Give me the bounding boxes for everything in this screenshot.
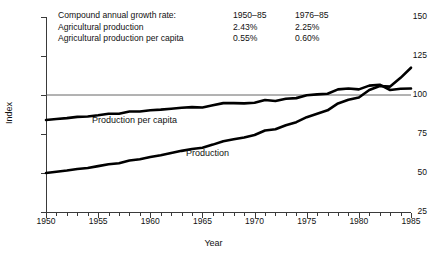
annotation-period-1: 1950–85: [233, 10, 295, 22]
series-label-production: Production: [186, 148, 229, 158]
growth-rate-annotation: Compound annual growth rate: 1950–85 197…: [58, 10, 357, 45]
annotation-production-rate-2: 2.25%: [295, 22, 357, 34]
x-axis-title: Year: [0, 238, 427, 248]
annotation-per-capita-rate-2: 0.60%: [295, 33, 357, 45]
annotation-row: Compound annual growth rate: 1950–85 197…: [58, 10, 357, 22]
annotation-row: Agricultural production per capita 0.55%…: [58, 33, 357, 45]
annotation-per-capita-rate-1: 0.55%: [233, 33, 295, 45]
annotation-header-label: Compound annual growth rate:: [58, 10, 233, 22]
annotation-per-capita-label: Agricultural production per capita: [58, 33, 233, 45]
annotation-period-2: 1976–85: [295, 10, 357, 22]
annotation-production-rate-1: 2.43%: [233, 22, 295, 34]
annotation-production-label: Agricultural production: [58, 22, 233, 34]
series-label-production-per-capita: Production per capita: [92, 115, 177, 125]
annotation-row: Agricultural production 2.43% 2.25%: [58, 22, 357, 34]
